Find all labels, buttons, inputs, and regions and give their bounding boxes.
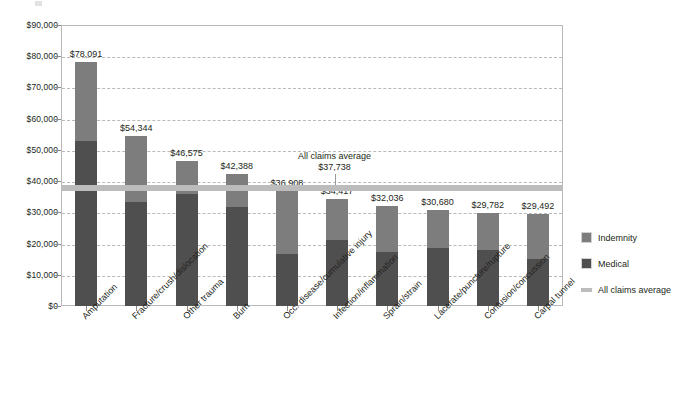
bar-value-label: $32,036 (371, 193, 404, 203)
bar-segment-medical[interactable] (427, 248, 449, 306)
bar-segment-indemnity[interactable] (376, 206, 398, 252)
annotation-leader-line (335, 174, 336, 185)
bar-value-label: $30,680 (421, 197, 454, 207)
y-axis-tick-mark (55, 306, 61, 307)
bar-segment-medical[interactable] (125, 202, 147, 306)
bar-segment-medical[interactable] (75, 141, 97, 306)
all-claims-average-annotation: All claims average $37,738 (283, 151, 387, 173)
y-axis-tick-label: $80,000 (2, 51, 58, 61)
chart-legend: IndemnityMedicalAll claims average (581, 231, 679, 309)
bar-segment-medical[interactable] (226, 207, 248, 306)
legend-swatch-icon (581, 288, 592, 292)
y-axis-tick-label: $50,000 (2, 145, 58, 155)
bar-group[interactable]: $54,344 (125, 136, 147, 306)
top-edge-artifact (35, 1, 42, 6)
legend-item[interactable]: All claims average (581, 283, 679, 296)
y-axis-tick-label: $40,000 (2, 176, 58, 186)
stacked-bar-chart: $0$10,000$20,000$30,000$40,000$50,000$60… (0, 0, 682, 420)
legend-swatch-icon (581, 232, 592, 243)
y-axis-tick-label: $10,000 (2, 270, 58, 280)
bar-segment-indemnity[interactable] (125, 136, 147, 201)
bar-group[interactable]: $30,680 (427, 210, 449, 306)
y-axis-tick-label: $70,000 (2, 82, 58, 92)
bar-segment-indemnity[interactable] (427, 210, 449, 248)
bar-group[interactable]: $42,388 (226, 174, 248, 306)
bar-value-label: $42,388 (220, 161, 253, 171)
all-claims-average-line (61, 185, 563, 191)
bar-segment-indemnity[interactable] (75, 62, 97, 140)
bar-segment-indemnity[interactable] (276, 191, 298, 254)
bar-segment-medical[interactable] (276, 254, 298, 306)
y-axis-tick-label: $90,000 (2, 20, 58, 30)
bar-group[interactable]: $36,908 (276, 191, 298, 306)
legend-label: Indemnity (598, 233, 637, 243)
bar-value-label: $29,492 (522, 201, 555, 211)
bar-value-label: $78,091 (70, 49, 103, 59)
y-axis-tick-label: $60,000 (2, 114, 58, 124)
y-axis-tick-label: $0 (2, 301, 58, 311)
annotation-line-2: $37,738 (283, 162, 387, 173)
legend-label: All claims average (598, 285, 671, 295)
bar-group[interactable]: $78,091 (75, 62, 97, 306)
legend-label: Medical (598, 259, 629, 269)
bar-segment-indemnity[interactable] (326, 199, 348, 241)
legend-item[interactable]: Indemnity (581, 231, 679, 244)
bar-value-label: $54,344 (120, 123, 153, 133)
legend-swatch-icon (581, 258, 592, 269)
bar-group[interactable]: $46,575 (176, 161, 198, 306)
bar-segment-indemnity[interactable] (477, 213, 499, 250)
bar-value-label: $46,575 (170, 148, 203, 158)
y-axis-tick-label: $30,000 (2, 207, 58, 217)
annotation-line-1: All claims average (283, 151, 387, 162)
y-axis-tick-label: $20,000 (2, 239, 58, 249)
bar-value-label: $29,782 (471, 200, 504, 210)
legend-item[interactable]: Medical (581, 257, 679, 270)
